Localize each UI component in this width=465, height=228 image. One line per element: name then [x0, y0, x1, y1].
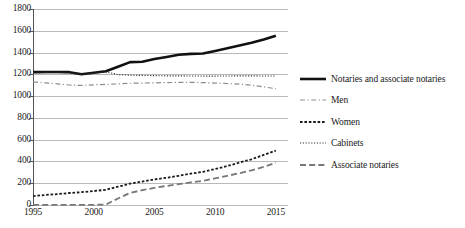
y-axis-label: 1600 — [1, 26, 31, 36]
chart-legend: Notaries and associate notariesMenWomenC… — [300, 68, 465, 176]
x-axis-label: 2000 — [85, 207, 103, 217]
x-axis-label: 1995 — [24, 207, 42, 217]
legend-label: Cabinets — [331, 138, 363, 148]
y-axis-label: 1800 — [1, 4, 31, 14]
y-tick-mark — [29, 74, 34, 75]
legend-swatch-icon — [300, 117, 326, 127]
y-axis-label: 600 — [1, 135, 31, 145]
legend-item-4[interactable]: Cabinets — [300, 133, 465, 155]
series-line-2 — [33, 82, 276, 89]
legend-swatch-icon — [300, 95, 326, 105]
x-axis-label: 2005 — [145, 207, 163, 217]
legend-label: Associate notaries — [331, 160, 399, 170]
y-axis-label: 1400 — [1, 48, 31, 58]
legend-swatch-icon — [300, 74, 326, 84]
legend-item-5[interactable]: Associate notaries — [300, 154, 465, 176]
legend-swatch-icon — [300, 138, 326, 148]
legend-label: Notaries and associate notaries — [331, 74, 445, 84]
y-tick-mark — [29, 53, 34, 54]
series-line-1 — [33, 36, 276, 75]
legend-label: Women — [331, 117, 360, 127]
y-axis-label: 200 — [1, 178, 31, 188]
chart-container: 020040060080010001200140016001800 199520… — [0, 0, 465, 228]
legend-item-1[interactable]: Notaries and associate notaries — [300, 68, 465, 90]
series-line-4 — [33, 72, 276, 76]
plot-area — [33, 9, 288, 205]
y-tick-mark — [29, 31, 34, 32]
y-axis-tick-labels: 020040060080010001200140016001800 — [0, 0, 31, 228]
legend-label: Men — [331, 95, 348, 105]
y-axis-label: 400 — [1, 156, 31, 166]
series-line-5 — [33, 163, 276, 205]
y-tick-mark — [29, 9, 34, 10]
legend-swatch-icon — [300, 160, 326, 170]
y-tick-mark — [29, 96, 34, 97]
y-tick-mark — [29, 140, 34, 141]
series-line-3 — [33, 151, 276, 197]
x-axis-label: 2015 — [267, 207, 285, 217]
y-axis-label: 1200 — [1, 69, 31, 79]
x-axis-tick-labels: 19952000200520102015 — [0, 207, 300, 223]
y-tick-mark — [29, 183, 34, 184]
legend-item-3[interactable]: Women — [300, 111, 465, 133]
y-tick-mark — [29, 118, 34, 119]
y-axis-label: 800 — [1, 113, 31, 123]
data-series-layer — [33, 9, 288, 205]
y-tick-mark — [29, 205, 34, 206]
x-axis-label: 2010 — [206, 207, 224, 217]
legend-item-2[interactable]: Men — [300, 90, 465, 112]
y-axis-label: 1000 — [1, 91, 31, 101]
y-tick-mark — [29, 161, 34, 162]
